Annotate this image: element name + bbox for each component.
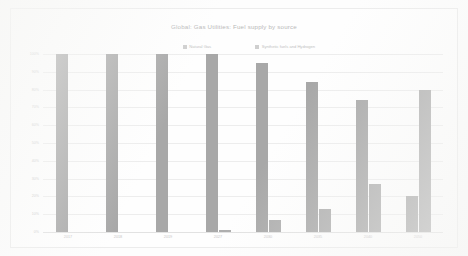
bar[interactable] bbox=[156, 54, 168, 232]
legend-swatch-icon bbox=[183, 45, 187, 49]
legend-item-natural-gas[interactable]: Natural Gas bbox=[183, 44, 211, 49]
y-axis-tick-label: 80% bbox=[32, 88, 39, 92]
bar[interactable] bbox=[319, 209, 331, 232]
y-axis-tick-label: 60% bbox=[32, 123, 39, 127]
x-axis-tick-label: 2035 bbox=[293, 235, 343, 239]
x-axis-tick-label: 2040 bbox=[343, 235, 393, 239]
y-axis-tick-label: 90% bbox=[32, 70, 39, 74]
x-axis-tick-label: 2050 bbox=[393, 235, 443, 239]
bar[interactable] bbox=[406, 196, 418, 232]
plot-area: 100%90%80%70%60%50%40%30%20%10%0% bbox=[43, 54, 443, 232]
legend-item-synthetic-fuels-hydrogen[interactable]: Synthetic fuels and Hydrogen bbox=[255, 44, 315, 49]
bar[interactable] bbox=[206, 54, 218, 232]
y-axis-tick-label: 50% bbox=[32, 141, 39, 145]
x-axis-tick-label: 2017 bbox=[43, 235, 93, 239]
x-axis: 20172018201920272030203520402050 bbox=[43, 235, 443, 239]
bar[interactable] bbox=[256, 63, 268, 232]
bar-group bbox=[393, 54, 443, 232]
bar-group bbox=[293, 54, 343, 232]
chart-title: Global: Gas Utilities: Fuel supply by so… bbox=[11, 23, 457, 30]
x-axis-tick-label: 2018 bbox=[93, 235, 143, 239]
bar-group bbox=[193, 54, 243, 232]
legend-swatch-icon bbox=[255, 45, 259, 49]
legend-label: Natural Gas bbox=[189, 44, 211, 49]
bar[interactable] bbox=[306, 82, 318, 232]
bar[interactable] bbox=[369, 184, 381, 232]
y-axis-tick-label: 70% bbox=[32, 105, 39, 109]
chart-legend: Natural Gas Synthetic fuels and Hydrogen bbox=[11, 44, 457, 49]
screenshot-page: Global: Gas Utilities: Fuel supply by so… bbox=[0, 0, 468, 256]
x-axis-tick-label: 2030 bbox=[243, 235, 293, 239]
bar-group bbox=[343, 54, 393, 232]
bar-group bbox=[93, 54, 143, 232]
y-axis-tick-label: 30% bbox=[32, 177, 39, 181]
y-axis-tick-label: 40% bbox=[32, 159, 39, 163]
bar-group bbox=[43, 54, 93, 232]
bar-group bbox=[143, 54, 193, 232]
bar[interactable] bbox=[419, 90, 431, 232]
bar[interactable] bbox=[269, 220, 281, 232]
gridline bbox=[43, 232, 443, 233]
bar[interactable] bbox=[106, 54, 118, 232]
chart-card: Global: Gas Utilities: Fuel supply by so… bbox=[10, 8, 458, 248]
y-axis-tick-label: 100% bbox=[30, 52, 39, 56]
x-axis-tick-label: 2027 bbox=[193, 235, 243, 239]
y-axis-tick-label: 20% bbox=[32, 194, 39, 198]
bar[interactable] bbox=[356, 100, 368, 232]
legend-label: Synthetic fuels and Hydrogen bbox=[262, 44, 315, 49]
bar-series-container bbox=[43, 54, 443, 232]
bar-group bbox=[243, 54, 293, 232]
bar[interactable] bbox=[219, 230, 231, 232]
bar[interactable] bbox=[56, 54, 68, 232]
y-axis-tick-label: 0% bbox=[34, 230, 39, 234]
y-axis-tick-label: 10% bbox=[32, 212, 39, 216]
x-axis-tick-label: 2019 bbox=[143, 235, 193, 239]
